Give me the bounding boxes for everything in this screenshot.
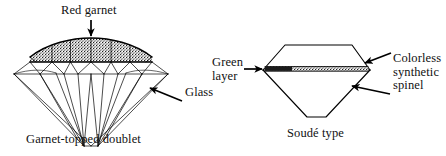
label-colorless-synthetic-spinel: Colorless synthetic spinel [393, 52, 446, 93]
label-green-layer: Green layer [212, 56, 258, 83]
arrow-spinel-crown [365, 53, 391, 63]
caption-soude-type: Soudé type [287, 127, 344, 141]
label-red-garnet: Red garnet [61, 4, 117, 18]
diagram-garnet-topped-doublet [14, 38, 168, 146]
composite-stones-figure: Red garnet Glass Garnet-topped doublet G… [0, 0, 446, 156]
label-glass: Glass [185, 86, 213, 100]
soude-seam-dark [265, 67, 292, 71]
arrow-glass [150, 88, 182, 101]
label-green-layer-line1: Green [212, 56, 258, 70]
girdle-facets [14, 62, 168, 74]
diagram-soude-type [263, 45, 370, 117]
arrow-spinel-pavilion [352, 86, 390, 94]
soude-pavilion-outline [263, 70, 370, 117]
caption-garnet-topped-doublet: Garnet-topped doublet [26, 133, 141, 147]
label-spinel-line1: Colorless [393, 52, 446, 66]
label-spinel-line2: synthetic [393, 66, 446, 80]
label-green-layer-line2: layer [212, 70, 258, 84]
label-spinel-line3: spinel [393, 79, 446, 93]
